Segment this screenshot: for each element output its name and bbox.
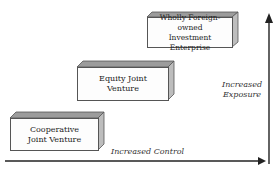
box-equity-joint-venture: Equity Joint Venture: [77, 67, 169, 101]
x-axis-arrow: [5, 157, 266, 165]
y-axis-label-line2: Exposure: [222, 90, 262, 100]
y-axis-label-line1: Increased: [222, 80, 262, 90]
box-wholly-foreign-owned: Wholly Foreign-owned Investment Enterpri…: [147, 17, 233, 48]
y-axis-arrow: [265, 13, 273, 164]
y-axis-label: Increased Exposure: [222, 80, 262, 100]
box-label-line1: Equity Joint: [99, 74, 147, 84]
box-label-line2: Joint Venture: [28, 135, 81, 145]
box-label-line2: Investment Enterprise: [148, 33, 232, 53]
box-label-line1: Wholly Foreign-owned: [148, 13, 232, 33]
box-label-line2: Venture: [99, 84, 147, 94]
x-axis-label: Increased Control: [111, 147, 184, 157]
diagram-canvas: Cooperative Joint Venture Equity Joint V…: [0, 0, 277, 169]
box-label-line1: Cooperative: [28, 125, 81, 135]
box-cooperative-joint-venture: Cooperative Joint Venture: [10, 118, 99, 151]
